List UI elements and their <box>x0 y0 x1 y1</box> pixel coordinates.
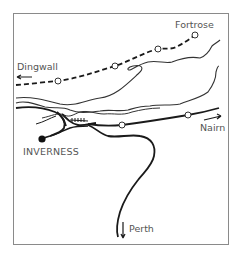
label-fortrose: Fortrose <box>175 19 214 30</box>
railway-map: Fortrose Dingwall Nairn INVERNESS Perth <box>0 0 240 257</box>
label-perth: Perth <box>129 223 154 234</box>
station-fortrose <box>192 32 198 38</box>
dingwall-arrow-icon <box>17 75 32 79</box>
station-fortrose-line-2 <box>112 63 118 69</box>
station-nairn-line-1 <box>119 122 125 128</box>
railway-junction-curve-c <box>50 126 88 136</box>
coastline-firth <box>42 108 160 118</box>
nairn-arrow-icon <box>204 114 221 120</box>
station-nairn-line-2 <box>185 112 191 118</box>
label-inverness: INVERNESS <box>23 146 79 157</box>
railway-west-line <box>16 107 66 126</box>
station-inverness <box>38 135 45 142</box>
railway-perth-line <box>88 125 154 237</box>
label-dingwall: Dingwall <box>17 61 58 72</box>
railway-fortrose-line <box>16 35 195 85</box>
coastline-north <box>16 40 220 105</box>
viaduct-hatch <box>70 118 88 122</box>
coastline-south <box>16 66 219 112</box>
perth-arrow-icon <box>121 222 125 238</box>
station-fortrose-line-3 <box>155 46 161 52</box>
station-fortrose-line-1 <box>55 78 61 84</box>
label-nairn: Nairn <box>200 122 225 133</box>
